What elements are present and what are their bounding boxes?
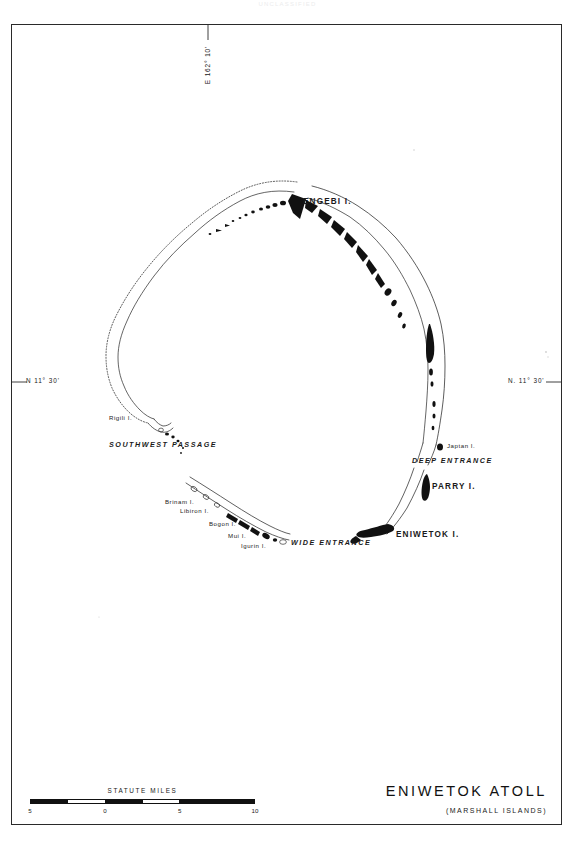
label-southwest-passage: SOUTHWEST PASSAGE <box>109 441 217 448</box>
scale-seg-5 <box>180 800 217 803</box>
label-brinam: Brinam I. <box>165 499 194 505</box>
scale-bar: STATUTE MILES 5 0 5 10 <box>30 787 255 817</box>
map-page: UNCLASSIFIED <box>0 0 575 850</box>
latitude-label-right: N. 11° 30' <box>508 378 544 384</box>
atoll-map-drawing <box>0 0 575 850</box>
label-engebi: ENGEBI I. <box>303 198 352 206</box>
label-rigili: Rigili I. <box>109 415 132 421</box>
label-igurin: Igurin I. <box>241 543 266 549</box>
reef-southwest-passage-spur <box>148 419 173 432</box>
longitude-label: E 162° 10' <box>200 42 214 88</box>
islands-north-rim <box>209 194 306 235</box>
label-eniwetok-island: ENIWETOK I. <box>396 531 459 539</box>
islands-northeast-rim <box>305 200 434 387</box>
scale-seg-2 <box>68 800 105 803</box>
map-subtitle: (MARSHALL ISLANDS) <box>386 807 547 814</box>
scale-tick-0: 5 <box>28 807 31 814</box>
longitude-label-text: E 162° 10' <box>204 46 211 84</box>
label-parry: PARRY I. <box>432 483 476 491</box>
reef-outer-edge <box>106 181 297 423</box>
graticule-ticks <box>11 24 562 382</box>
scale-seg-1 <box>31 800 68 803</box>
scale-seg-6 <box>218 800 254 803</box>
island-eniwetok <box>356 524 394 538</box>
island-mui <box>238 520 250 530</box>
label-japtan: Japtan I. <box>447 443 475 449</box>
island-igurin <box>261 532 271 541</box>
scale-tick-3: 10 <box>252 807 259 814</box>
scale-seg-3 <box>106 800 143 803</box>
title-block: ENIWETOK ATOLL (MARSHALL ISLANDS) <box>386 783 547 814</box>
island-parry <box>422 474 431 501</box>
label-libiron: Libiron I. <box>180 508 209 514</box>
label-mui: Mui I. <box>228 533 246 539</box>
island-japtan <box>437 443 443 450</box>
scale-bar-title: STATUTE MILES <box>30 787 255 794</box>
scale-bar-graphic <box>30 799 255 804</box>
latitude-label-left: N 11° 30' <box>26 378 60 384</box>
scale-seg-4 <box>143 800 180 803</box>
scale-tick-1: 0 <box>103 807 106 814</box>
label-deep-entrance: DEEP ENTRANCE <box>412 457 493 464</box>
scale-tick-2: 5 <box>178 807 181 814</box>
reef-inner-edge <box>118 191 294 419</box>
map-title: ENIWETOK ATOLL <box>386 783 547 799</box>
scale-bar-ticks: 5 0 5 10 <box>30 805 255 817</box>
reef-northeast-inner <box>308 198 428 443</box>
label-wide-entrance: WIDE ENTRANCE <box>291 539 371 546</box>
label-bogon: Bogon I. <box>209 521 236 527</box>
